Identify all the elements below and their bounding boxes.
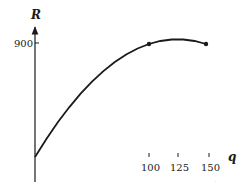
- x-tick-label-150: 150: [201, 162, 220, 173]
- x-tick-label-100: 100: [141, 162, 160, 173]
- revenue-curve: [35, 39, 206, 157]
- data-point: [204, 42, 208, 46]
- x-tick-label-125: 125: [170, 162, 189, 173]
- data-point: [147, 42, 151, 46]
- revenue-chart: R q 900 100 125 150: [0, 0, 248, 182]
- y-tick-label-900: 900: [14, 38, 33, 49]
- y-axis-label: R: [30, 8, 41, 22]
- x-axis-label: q: [228, 150, 236, 164]
